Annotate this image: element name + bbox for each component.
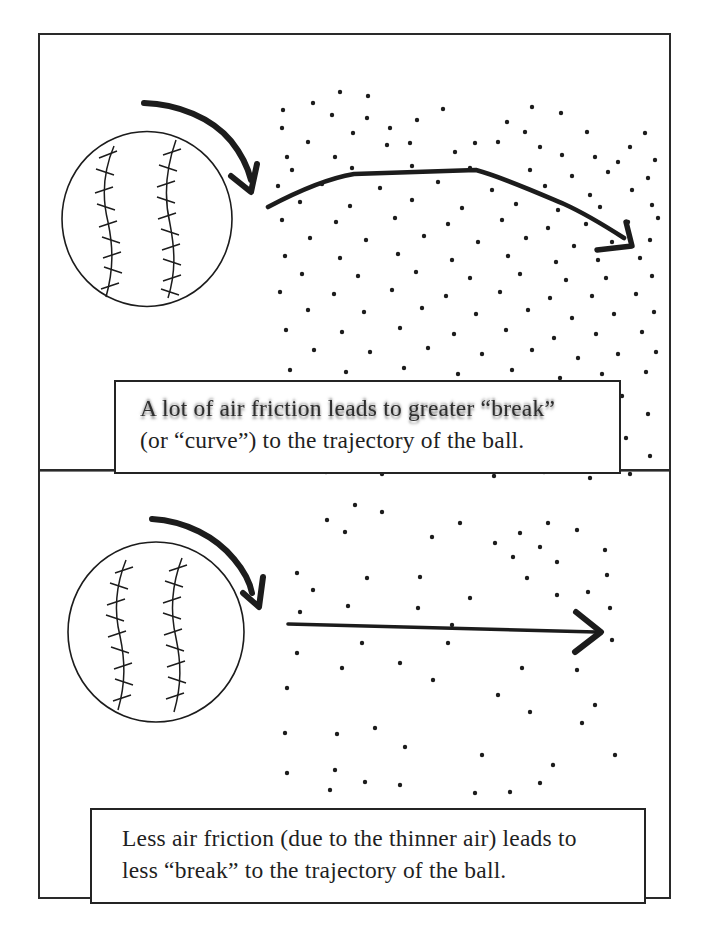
caption-box-thin-air: Less air friction (due to the thinner ai… <box>90 808 646 904</box>
clockwise-spin-arrow-icon <box>152 519 263 607</box>
caption-line: Less air friction (due to the thinner ai… <box>122 822 638 854</box>
baseball-right-seam <box>167 140 176 298</box>
caption-box-dense-air: A lot of air friction leads to greater “… <box>114 380 621 474</box>
clockwise-spin-arrow-icon <box>144 103 257 192</box>
caption-line: A lot of air friction leads to greater “… <box>140 392 613 424</box>
panel-thin-air <box>68 503 617 795</box>
diagram-drawing-layer <box>0 0 704 949</box>
baseball-left-seam <box>104 146 114 297</box>
baseball-icon <box>68 542 244 722</box>
caption-line: (or “curve”) to the trajectory of the ba… <box>140 424 613 456</box>
baseball-right-seam <box>173 558 182 712</box>
caption-line: less “break” to the trajectory of the ba… <box>122 854 638 886</box>
straight-trajectory-arrow-icon <box>288 612 601 652</box>
baseball-left-seam <box>117 560 126 710</box>
baseball-left-seam-stitches <box>95 151 122 289</box>
scanned-diagram-page: A lot of air friction leads to greater “… <box>0 0 704 949</box>
air-molecule-dots <box>283 503 617 795</box>
baseball-icon <box>62 132 232 307</box>
breaking-trajectory-arrow-icon <box>268 170 632 250</box>
baseball-right-seam-stitches <box>163 565 187 699</box>
